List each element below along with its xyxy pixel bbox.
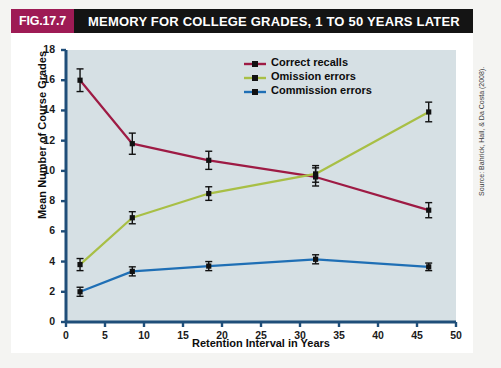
datapoint-commission-errors-3 [312,255,319,264]
figure-title-bar: FIG.17.7 MEMORY FOR COLLEGE GRADES, 1 TO… [11,9,473,33]
legend-item: Commission errors [244,83,372,97]
legend-label: Omission errors [271,70,356,82]
datapoint-omission-errors-0 [77,259,84,271]
legend-swatch-icon [244,84,266,96]
source-note: Source: Bahrick, Hall, & Da Costa (2008)… [478,36,485,196]
marker [426,109,431,114]
figure-number-badge: FIG.17.7 [11,9,74,33]
legend-item: Correct recalls [244,55,372,69]
figure-body: 024681012141618 05101520253035404550 Mea… [11,33,473,353]
datapoint-correct-recalls-2 [205,151,212,169]
legend-swatch-icon [244,70,266,82]
legend-label: Correct recalls [271,56,348,68]
x-axis-label: Retention Interval in Years [66,337,456,349]
y-tick-label: 4 [35,255,55,267]
marker [130,215,135,220]
chart-legend: Correct recallsOmission errorsCommission… [244,55,372,97]
legend-label: Commission errors [271,84,372,96]
marker [77,289,82,294]
datapoint-commission-errors-4 [425,263,432,271]
figure-page: FIG.17.7 MEMORY FOR COLLEGE GRADES, 1 TO… [0,0,501,368]
y-axis-label: Mean Number of Course Grades [36,40,48,230]
marker [77,262,82,267]
marker [206,263,211,268]
datapoint-commission-errors-1 [129,267,136,276]
marker [313,171,318,176]
legend-item: Omission errors [244,69,372,83]
marker [130,269,135,274]
marker [313,257,318,262]
marker [426,264,431,269]
marker [206,158,211,163]
legend-swatch-icon [244,56,266,68]
marker [426,208,431,213]
y-tick-label: 2 [35,285,55,297]
datapoint-omission-errors-1 [129,212,136,224]
datapoint-commission-errors-2 [205,262,212,271]
marker [130,141,135,146]
datapoint-correct-recalls-1 [129,133,136,154]
page-title: MEMORY FOR COLLEGE GRADES, 1 TO 50 YEARS… [74,9,460,33]
marker [206,191,211,196]
y-tick-label: 0 [35,315,55,327]
datapoint-commission-errors-0 [77,287,84,296]
datapoint-omission-errors-2 [205,187,212,201]
datapoint-correct-recalls-4 [425,203,432,218]
marker [77,78,82,83]
datapoint-correct-recalls-0 [77,69,84,92]
datapoint-omission-errors-4 [425,102,432,122]
